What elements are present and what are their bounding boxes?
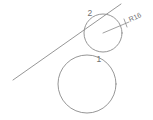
- radius-leader-line: [103, 22, 129, 33]
- circle-large: [58, 55, 116, 113]
- radius-dimension-label: R16: [128, 11, 143, 23]
- circle-large-label: 1: [97, 54, 102, 64]
- technical-drawing-canvas: 2 1 R16: [0, 0, 153, 120]
- tangent-line: [13, 4, 121, 80]
- drawing-surface: 2 1 R16: [0, 0, 153, 120]
- circle-small-label: 2: [88, 8, 93, 18]
